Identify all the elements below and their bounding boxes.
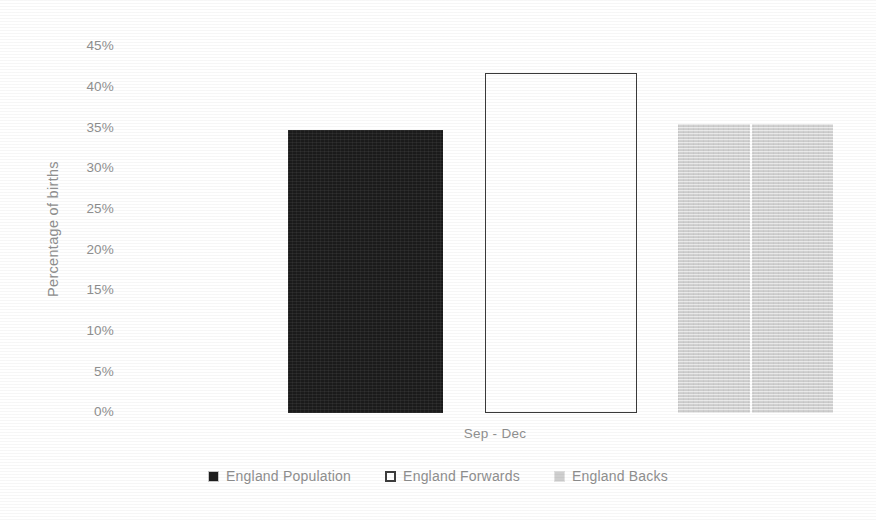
y-tick-label: 30% [64, 161, 114, 175]
y-tick-label: 35% [64, 121, 114, 135]
y-tick-label: 45% [64, 39, 114, 53]
y-tick-label: 20% [64, 243, 114, 257]
legend-label: England Forwards [403, 468, 520, 484]
y-axis-title: Percentage of births [40, 46, 66, 412]
plot-area [124, 30, 866, 413]
bar-england-forwards[interactable] [485, 73, 637, 413]
y-axis-tick-labels: 45% 40% 35% 30% 25% 20% 15% 10% 5% 0% [64, 0, 114, 520]
x-axis-category-label: Sep - Dec [124, 426, 866, 441]
legend-item-england-forwards[interactable]: England Forwards [385, 468, 520, 484]
y-tick-label: 15% [64, 283, 114, 297]
y-tick-label: 0% [64, 405, 114, 419]
bar-england-population[interactable] [288, 130, 443, 413]
filled-light-square-icon [554, 471, 565, 482]
legend-item-england-backs[interactable]: England Backs [554, 468, 668, 484]
y-tick-label: 10% [64, 324, 114, 338]
chart-legend: England Population England Forwards Engl… [0, 468, 876, 484]
y-tick-label: 5% [64, 365, 114, 379]
y-tick-label: 40% [64, 80, 114, 94]
legend-label: England Backs [572, 468, 668, 484]
hollow-square-icon [385, 471, 396, 482]
y-tick-label: 25% [64, 202, 114, 216]
legend-item-england-population[interactable]: England Population [208, 468, 351, 484]
bar-chart: Percentage of births 45% 40% 35% 30% 25%… [0, 0, 876, 520]
filled-dark-square-icon [208, 471, 219, 482]
bar-split-line [750, 124, 752, 413]
bar-england-backs[interactable] [678, 124, 833, 413]
legend-label: England Population [226, 468, 351, 484]
